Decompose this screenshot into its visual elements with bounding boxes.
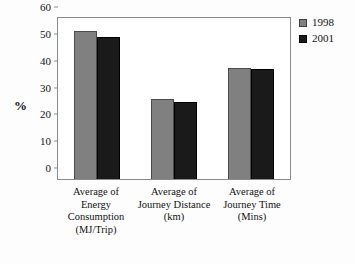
y-axis-tick: 20 [40, 109, 58, 120]
bars-layer [58, 18, 290, 179]
legend-swatch-icon [299, 35, 307, 43]
x-axis-label-1: Average ofEnergyConsumption(MJ/Trip) [57, 186, 135, 236]
legend-swatch-icon [299, 19, 307, 27]
y-axis-tick: 30 [40, 82, 58, 93]
y-axis-tick: 0 [46, 163, 59, 174]
x-axis-label-line: Average of [57, 186, 135, 199]
x-axis-label-line: (MJ/Trip) [57, 224, 135, 237]
legend-item-label: 1998 [312, 17, 334, 28]
x-axis-label-line: Journey Time [213, 199, 291, 212]
bar-1998-3[interactable] [228, 68, 251, 179]
x-axis-label-line: (km) [135, 211, 213, 224]
y-axis-tick: 50 [40, 28, 58, 39]
y-axis-tick-label: 50 [40, 28, 54, 39]
x-axis-label-line: Consumption [57, 211, 135, 224]
y-axis-tick-label: 40 [40, 55, 54, 66]
bar-chart-figure: % 0102030405060 Average ofEnergyConsumpt… [0, 0, 355, 264]
bar-group [74, 18, 120, 179]
y-axis-tick: 40 [40, 55, 58, 66]
x-axis-category-labels: Average ofEnergyConsumption(MJ/Trip)Aver… [57, 186, 291, 236]
bar-group [151, 18, 197, 179]
bar-group [228, 18, 274, 179]
y-axis-tick-label: 30 [40, 82, 54, 93]
x-axis-label-2: Average ofJourney Distance(km) [135, 186, 213, 236]
y-axis-tick-label: 0 [46, 163, 55, 174]
bar-2001-1[interactable] [97, 37, 120, 179]
legend-item-1998[interactable]: 1998 [299, 17, 334, 28]
x-axis-label-line: (Mins) [213, 211, 291, 224]
chart-legend: 19982001 [299, 17, 334, 49]
x-axis-label-line: Energy [57, 199, 135, 212]
y-axis-tick: 10 [40, 136, 58, 147]
bar-2001-3[interactable] [251, 69, 274, 179]
y-axis-tick-mark [54, 7, 58, 8]
y-axis-tick-label: 20 [40, 109, 54, 120]
x-axis-label-line: Average of [135, 186, 213, 199]
plot-area: 0102030405060 [57, 17, 291, 180]
y-axis-tick-label: 10 [40, 136, 54, 147]
x-axis-label-3: Average ofJourney Time(Mins) [213, 186, 291, 236]
legend-item-label: 2001 [312, 33, 334, 44]
y-axis-tick: 60 [40, 2, 58, 13]
bar-1998-1[interactable] [74, 31, 97, 179]
x-axis-label-line: Average of [213, 186, 291, 199]
x-axis-label-line: Journey Distance [135, 199, 213, 212]
y-axis-label: % [14, 98, 27, 114]
legend-item-2001[interactable]: 2001 [299, 33, 334, 44]
bar-2001-2[interactable] [174, 102, 197, 179]
y-axis-tick-label: 60 [40, 2, 54, 13]
bar-1998-2[interactable] [151, 99, 174, 180]
